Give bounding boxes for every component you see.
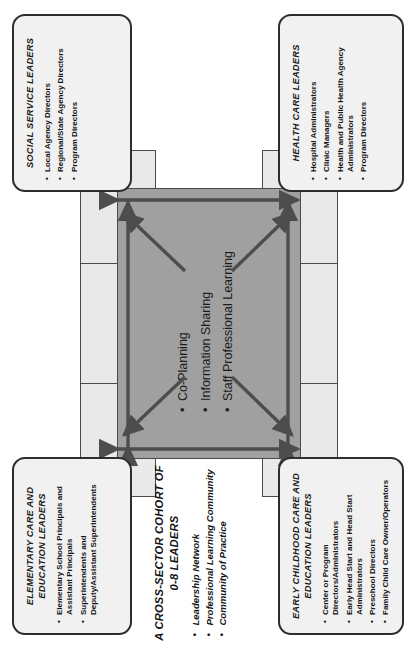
box-health-care-leaders[interactable]: HEALTH CARE LEADERS Hospital Administrat… xyxy=(278,14,404,192)
diagram-canvas: Co-Planning Information Sharing Staff Pr… xyxy=(0,0,416,649)
box-title: HEALTH CARE LEADERS xyxy=(290,26,302,180)
box-item: Family Child Care Owner/Operators xyxy=(381,469,391,623)
box-list: Center or Program Directors/Administrato… xyxy=(321,469,391,623)
cohort-caption: A CROSS-SECTOR COHORT OF 0-8 LEADERS Lea… xyxy=(152,463,230,643)
cohort-item: Leadership Network xyxy=(189,469,203,636)
box-item: Superintendents and Deputy/Assistant Sup… xyxy=(79,469,99,623)
core-item: Co-Planning xyxy=(175,189,192,412)
box-early-childhood-care-education-leaders[interactable]: EARLY CHILDHOOD CARE AND EDUCATION LEADE… xyxy=(278,457,404,635)
box-item: Local Agency Directors xyxy=(43,26,53,180)
core-item: Staff Professional Learning xyxy=(220,189,237,412)
rotated-diagram-wrapper: Co-Planning Information Sharing Staff Pr… xyxy=(0,0,416,649)
box-list: Local Agency Directors Regional/State Ag… xyxy=(43,26,80,180)
cohort-item: Community of Practice xyxy=(216,469,230,636)
box-item: Program Directors xyxy=(70,26,80,180)
box-elementary-care-education-leaders[interactable]: ELEMENTARY CARE AND EDUCATION LEADERS El… xyxy=(12,457,132,635)
cohort-list: Leadership Network Professional Learning… xyxy=(189,469,230,636)
box-item: Program Directors xyxy=(359,26,369,180)
box-title: EARLY CHILDHOOD CARE AND EDUCATION LEADE… xyxy=(290,469,314,623)
box-title: ELEMENTARY CARE AND EDUCATION LEADERS xyxy=(24,469,48,623)
core-item: Information Sharing xyxy=(198,189,215,412)
box-title: SOCIAL SERVICE LEADERS xyxy=(24,26,36,180)
core-activities-list: Co-Planning Information Sharing Staff Pr… xyxy=(175,189,243,458)
box-item: Center or Program Directors/Administrato… xyxy=(321,469,341,623)
box-item: Health and Public Health Agency Administ… xyxy=(336,26,356,180)
cohort-title: A CROSS-SECTOR COHORT OF 0-8 LEADERS xyxy=(152,463,182,643)
cohort-title-line2: 0-8 LEADERS xyxy=(168,516,180,591)
box-item: Regional/State Agency Directors xyxy=(56,26,66,180)
box-item: Hospital Administrators xyxy=(309,26,319,180)
box-item: Clinic Managers xyxy=(322,26,332,180)
cohort-title-line1: A CROSS-SECTOR COHORT OF xyxy=(153,465,165,641)
box-item: Preschool Directors xyxy=(368,469,378,623)
cohort-item: Professional Learning Community xyxy=(203,469,217,636)
box-list: Hospital Administrators Clinic Managers … xyxy=(309,26,369,180)
core-activities-panel: Co-Planning Information Sharing Staff Pr… xyxy=(117,188,301,459)
box-item: Elementary School Principals and Assista… xyxy=(55,469,75,623)
box-social-service-leaders[interactable]: SOCIAL SERVICE LEADERS Local Agency Dire… xyxy=(12,14,132,192)
box-item: Early Head Start and Head Start Administ… xyxy=(345,469,365,623)
box-list: Elementary School Principals and Assista… xyxy=(55,469,99,623)
